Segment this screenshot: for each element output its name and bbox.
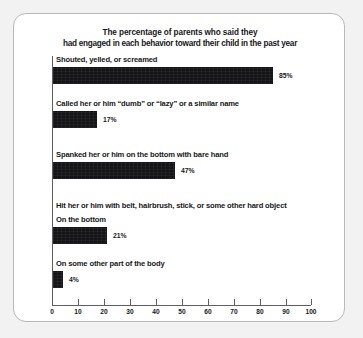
category-axis-line xyxy=(52,56,53,305)
bar-value-5: 4% xyxy=(69,276,79,283)
chart-title-line-1: The percentage of parents who said they xyxy=(34,27,326,38)
bar-value-3: 47% xyxy=(181,167,195,174)
x-tick-label-40: 40 xyxy=(152,308,159,315)
x-tick-label-0: 0 xyxy=(50,308,54,315)
bar-label-1: Shouted, yelled, or screamed xyxy=(56,55,157,64)
x-tick-40 xyxy=(156,299,157,305)
bar-label-3: Spanked her or him on the bottom with ba… xyxy=(56,150,228,159)
x-tick-20 xyxy=(104,299,105,305)
figure-page: The percentage of parents who said they … xyxy=(0,0,363,338)
x-tick-label-100: 100 xyxy=(305,308,316,315)
x-tick-label-90: 90 xyxy=(282,308,289,315)
bar-3 xyxy=(53,162,175,179)
x-tick-label-50: 50 xyxy=(178,308,185,315)
x-tick-70 xyxy=(234,299,235,305)
x-tick-10 xyxy=(78,299,79,305)
bar-4 xyxy=(53,227,107,244)
bar-value-4: 21% xyxy=(113,232,127,239)
x-tick-90 xyxy=(286,299,287,305)
bar-value-2: 17% xyxy=(103,116,117,123)
x-tick-label-60: 60 xyxy=(204,308,211,315)
x-tick-label-80: 80 xyxy=(256,308,263,315)
bar-2 xyxy=(53,111,97,128)
bar-5 xyxy=(53,271,63,288)
x-tick-30 xyxy=(130,299,131,305)
x-tick-50 xyxy=(182,299,183,305)
x-tick-100 xyxy=(311,299,312,305)
bar-label-4: On the bottom xyxy=(56,215,106,224)
x-tick-label-70: 70 xyxy=(230,308,237,315)
plot-area: 0 10 20 30 40 50 60 70 80 90 100 Shouted… xyxy=(52,43,334,308)
x-tick-label-20: 20 xyxy=(100,308,107,315)
chart-card: The percentage of parents who said they … xyxy=(13,13,345,322)
bar-value-1: 85% xyxy=(279,72,293,79)
x-tick-label-30: 30 xyxy=(126,308,133,315)
bar-label-2: Called her or him “dumb” or “lazy” or a … xyxy=(56,99,239,108)
bar-label-5: On some other part of the body xyxy=(56,259,165,268)
bar-1 xyxy=(53,67,273,84)
bar-group-4-header: Hit her or him with belt, hairbrush, sti… xyxy=(56,201,287,210)
x-tick-label-10: 10 xyxy=(74,308,81,315)
x-tick-60 xyxy=(208,299,209,305)
x-tick-80 xyxy=(260,299,261,305)
x-tick-0 xyxy=(52,299,53,305)
value-axis-line xyxy=(52,305,311,306)
